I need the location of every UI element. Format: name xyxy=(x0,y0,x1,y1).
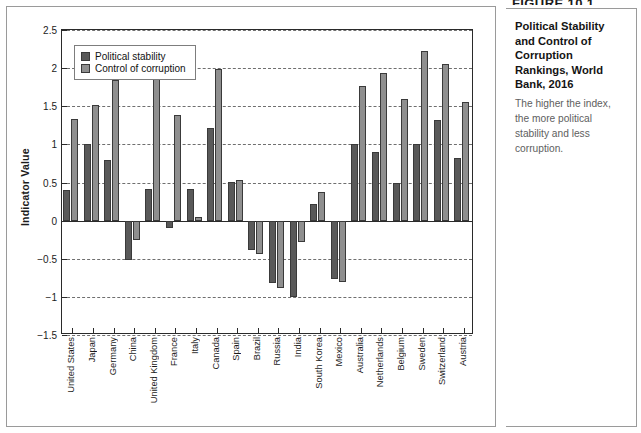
x-axis-tick xyxy=(196,328,197,333)
bar-political-stability xyxy=(207,128,214,221)
chart-panel: Indicator Value 2.521.510.50−0.5−1−1.5 P… xyxy=(6,6,496,427)
bar-control-of-corruption xyxy=(277,221,284,288)
x-axis-label: South Korea xyxy=(314,337,324,389)
bar-control-of-corruption xyxy=(215,69,222,221)
x-axis-labels: United StatesJapanGermanyChinaUnited Kin… xyxy=(61,337,473,433)
x-axis-label: Brazil xyxy=(252,337,262,360)
x-axis-tick xyxy=(134,328,135,333)
y-axis-tick-label: 0 xyxy=(51,215,57,226)
legend-swatch-icon xyxy=(81,64,90,73)
x-axis-tick xyxy=(402,328,403,333)
bar-control-of-corruption xyxy=(92,105,99,220)
bar-control-of-corruption xyxy=(401,99,408,221)
bar-political-stability xyxy=(248,221,255,250)
x-axis-tick xyxy=(114,328,115,333)
bar-political-stability xyxy=(125,221,132,261)
bar-political-stability xyxy=(290,221,297,297)
legend-swatch-icon xyxy=(81,52,90,61)
x-axis-label: Sweden xyxy=(417,337,427,371)
bar-political-stability xyxy=(372,152,379,221)
bar-group xyxy=(453,30,474,333)
x-axis-tick xyxy=(464,328,465,333)
figure-container: FIGURE 10.1 Indicator Value 2.521.510.50… xyxy=(0,0,641,433)
legend-item-political-stability: Political stability xyxy=(81,51,186,62)
bar-control-of-corruption xyxy=(71,119,78,220)
y-axis-tick-label: 2 xyxy=(51,63,57,74)
x-axis-label: Russia xyxy=(272,337,282,365)
bar-political-stability xyxy=(187,189,194,221)
bar-political-stability xyxy=(331,221,338,279)
bar-control-of-corruption xyxy=(380,73,387,221)
x-axis-label: France xyxy=(169,337,179,366)
bar-political-stability xyxy=(269,221,276,284)
x-axis-label: Canada xyxy=(211,337,221,370)
x-axis-tick xyxy=(299,328,300,333)
bar-group xyxy=(289,30,310,333)
legend-label: Control of corruption xyxy=(95,63,186,74)
x-axis-label: Italy xyxy=(190,337,200,354)
x-axis-tick xyxy=(155,328,156,333)
x-axis-tick xyxy=(258,328,259,333)
bar-group xyxy=(392,30,413,333)
y-axis-tick-label: −0.5 xyxy=(37,253,57,264)
bar-control-of-corruption xyxy=(195,217,202,221)
bar-group xyxy=(412,30,433,333)
bar-political-stability xyxy=(166,221,173,229)
y-axis-tick-label: 1 xyxy=(51,139,57,150)
chart-legend: Political stability Control of corruptio… xyxy=(74,45,196,80)
x-axis-tick xyxy=(423,328,424,333)
bar-political-stability xyxy=(434,120,441,221)
bar-political-stability xyxy=(63,190,70,221)
figure-number: FIGURE 10.1 xyxy=(512,0,637,5)
bar-control-of-corruption xyxy=(153,77,160,221)
bar-group xyxy=(371,30,392,333)
bar-control-of-corruption xyxy=(256,221,263,255)
figure-title: Political Stability and Control of Corru… xyxy=(515,19,627,92)
bar-control-of-corruption xyxy=(298,221,305,242)
bar-group xyxy=(433,30,454,333)
figure-caption: The higher the index, the more political… xyxy=(515,96,627,156)
y-axis-tick-label: −1 xyxy=(46,291,57,302)
x-axis-tick xyxy=(361,328,362,333)
x-axis-label: United Kingdom xyxy=(149,337,159,403)
bar-group xyxy=(330,30,351,333)
x-axis-label: Belgium xyxy=(396,337,406,371)
x-axis-label: Switzerland xyxy=(437,337,447,385)
x-axis-tick xyxy=(340,328,341,333)
x-axis-label: Australia xyxy=(355,337,365,373)
bar-control-of-corruption xyxy=(318,192,325,221)
y-axis-tick-label: 2.5 xyxy=(43,25,57,36)
x-axis-tick xyxy=(278,328,279,333)
legend-label: Political stability xyxy=(95,51,166,62)
bar-control-of-corruption xyxy=(133,221,140,240)
bar-political-stability xyxy=(145,189,152,221)
x-axis-label: India xyxy=(293,337,303,357)
bar-political-stability xyxy=(84,144,91,220)
x-axis-label: Netherlands xyxy=(375,337,385,387)
bar-control-of-corruption xyxy=(112,80,119,220)
caption-panel: Political Stability and Control of Corru… xyxy=(506,8,637,427)
legend-item-control-of-corruption: Control of corruption xyxy=(81,63,186,74)
x-axis-label: Spain xyxy=(231,337,241,361)
x-axis-tick xyxy=(217,328,218,333)
bar-control-of-corruption xyxy=(359,86,366,221)
bar-group xyxy=(268,30,289,333)
y-axis-title: Indicator Value xyxy=(17,107,33,267)
bar-group xyxy=(247,30,268,333)
bar-control-of-corruption xyxy=(442,64,449,221)
y-axis-tick-label: −1.5 xyxy=(37,330,57,341)
bar-control-of-corruption xyxy=(421,51,428,220)
x-axis-tick xyxy=(237,328,238,333)
bar-political-stability xyxy=(413,144,420,220)
bar-political-stability xyxy=(310,204,317,221)
bar-political-stability xyxy=(104,160,111,221)
bar-political-stability xyxy=(454,158,461,221)
x-axis-tick xyxy=(93,328,94,333)
bar-control-of-corruption xyxy=(462,102,469,220)
bar-group xyxy=(227,30,248,333)
x-axis-label: Japan xyxy=(87,337,97,362)
x-axis-label: Austria xyxy=(458,337,468,366)
x-axis-tick xyxy=(381,328,382,333)
bar-control-of-corruption xyxy=(339,221,346,282)
y-axis-tick-label: 0.5 xyxy=(43,177,57,188)
